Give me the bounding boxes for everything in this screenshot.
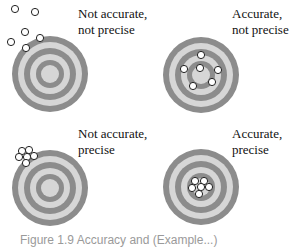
label-line: precise [232,142,282,158]
shot-dot [195,190,202,197]
label-line: not precise [78,22,147,38]
label-line: not precise [232,22,289,38]
label-line: precise [78,142,147,158]
shot-dot [7,38,14,45]
label-not-accurate-precise: Not accurate, precise [78,126,147,158]
target-ring [41,179,59,197]
target-br [163,149,239,225]
shot-dot [25,146,32,153]
shot-dot [15,153,22,160]
target-tr [163,37,239,113]
shot-dot [21,28,28,35]
shot-dot [208,78,215,85]
target-ring [41,65,59,83]
shot-dot [11,5,18,12]
shot-dot [188,184,195,191]
label-line: Accurate, [232,6,289,22]
shot-dot [197,51,204,58]
target-tl [7,5,88,112]
label-accurate-not-precise: Accurate, not precise [232,6,289,38]
figure-caption: Figure 1.9 Accuracy and (Example...) [20,233,217,247]
shot-dot [196,64,203,71]
label-accurate-precise: Accurate, precise [232,126,282,158]
shot-dot [205,183,212,190]
label-line: Accurate, [232,126,282,142]
shot-dot [31,8,38,15]
shot-dot [197,183,204,190]
shot-dot [36,34,43,41]
label-line: Not accurate, [78,126,147,142]
shot-dot [22,159,29,166]
label-not-accurate-not-precise: Not accurate, not precise [78,6,147,38]
target-bl [12,146,88,226]
shot-dot [189,82,196,89]
shot-dot [214,66,221,73]
shot-dot [22,44,29,51]
shot-dot [191,177,198,184]
label-line: Not accurate, [78,6,147,22]
shot-dot [30,152,37,159]
shot-dot [180,65,187,72]
